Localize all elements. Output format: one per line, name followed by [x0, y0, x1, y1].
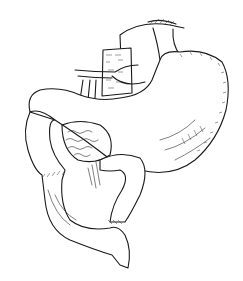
jejunum — [88, 154, 145, 224]
vessel-block — [75, 48, 145, 100]
anatomical-illustration — [0, 0, 243, 281]
stomach-drawing — [0, 0, 243, 281]
